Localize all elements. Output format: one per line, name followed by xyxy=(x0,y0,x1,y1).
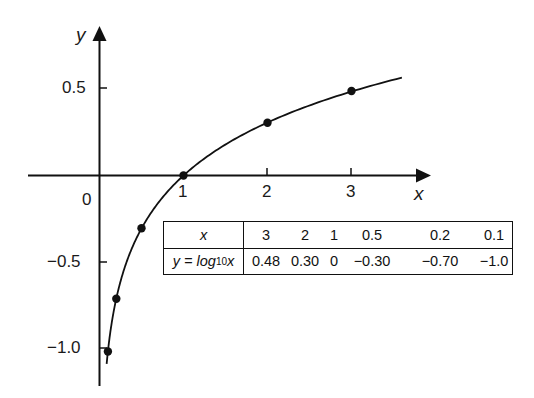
y-ticks xyxy=(100,88,108,348)
table-cell: 0.2 xyxy=(430,227,450,243)
table-cell: 0.5 xyxy=(362,227,382,243)
origin-label: 0 xyxy=(82,190,91,210)
data-point xyxy=(263,119,271,127)
table-cells-x: 3 2 1 0.5 0.2 0.1 xyxy=(244,222,512,248)
x-axis-label: x xyxy=(414,183,424,205)
values-table: x 3 2 1 0.5 0.2 0.1 y = log10x 0.48 0.30… xyxy=(163,221,513,275)
x-tick-label-1: 1 xyxy=(178,182,187,202)
table-header-y-prefix: y = log xyxy=(173,253,216,269)
data-point xyxy=(179,171,187,179)
table-cell: 2 xyxy=(301,227,309,243)
table-header-y-suffix: x xyxy=(227,253,234,269)
table-cell: 0.30 xyxy=(291,253,319,269)
y-tick-label-0.5: 0.5 xyxy=(62,78,86,98)
table-header-y: y = log10x xyxy=(164,248,244,274)
table-cell: 0.1 xyxy=(484,227,504,243)
table-cell: −0.30 xyxy=(354,253,391,269)
table-cells-y: 0.48 0.30 0 −0.30 −0.70 −1.0 xyxy=(244,248,512,274)
x-axis-arrow-icon xyxy=(416,169,431,183)
data-point xyxy=(347,87,355,95)
table-row-y: y = log10x 0.48 0.30 0 −0.30 −0.70 −1.0 xyxy=(164,248,512,274)
x-ticks xyxy=(267,168,351,175)
x-tick-label-2: 2 xyxy=(262,182,271,202)
table-cell: 1 xyxy=(330,227,338,243)
table-header-x: x xyxy=(164,222,244,248)
data-point xyxy=(104,347,112,355)
x-tick-label-3: 3 xyxy=(346,182,355,202)
table-header-y-sub: 10 xyxy=(216,256,227,267)
y-tick-label-neg1.0: −1.0 xyxy=(47,338,81,358)
data-point xyxy=(137,224,145,232)
table-row-x: x 3 2 1 0.5 0.2 0.1 xyxy=(164,222,512,249)
table-cell: −1.0 xyxy=(480,253,509,269)
table-cell: 0.48 xyxy=(252,253,280,269)
y-tick-label-neg0.5: −0.5 xyxy=(47,252,81,272)
table-cell: −0.70 xyxy=(422,253,459,269)
y-axis-arrow-icon xyxy=(93,26,107,41)
data-point xyxy=(112,295,120,303)
table-cell: 3 xyxy=(262,227,270,243)
table-cell: 0 xyxy=(330,253,338,269)
y-axis-label: y xyxy=(76,24,86,46)
